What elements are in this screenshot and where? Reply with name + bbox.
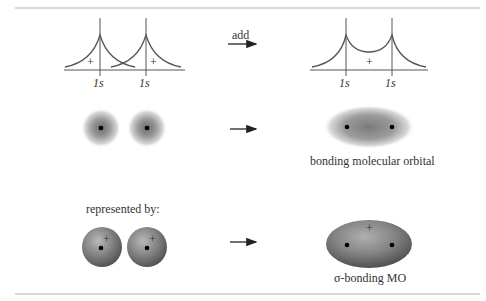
orbital-label-1s-a: 1s (93, 76, 104, 91)
bonding-mo-cloud (323, 105, 415, 149)
plus-sign-bonding: + (366, 55, 373, 70)
atomic-electron-clouds (81, 108, 167, 148)
atomic-1s-wavefunctions (64, 18, 185, 76)
plus-sign-left-2: + (150, 55, 157, 70)
add-label: add (232, 28, 249, 43)
orbital-diagram (0, 0, 486, 301)
plus-sign-sphere-1: + (103, 232, 110, 247)
represented-by-label: represented by: (86, 202, 160, 217)
orbital-label-1s-c: 1s (339, 76, 350, 91)
plus-sign-sigma-mo: + (366, 221, 373, 236)
plus-sign-sphere-2: + (149, 232, 156, 247)
orbital-label-1s-d: 1s (385, 76, 396, 91)
bonding-mo-caption: bonding molecular orbital (310, 154, 435, 169)
orbital-label-1s-b: 1s (139, 76, 150, 91)
sigma-bonding-mo-caption: σ-bonding MO (334, 271, 406, 286)
plus-sign-left-1: + (87, 55, 94, 70)
